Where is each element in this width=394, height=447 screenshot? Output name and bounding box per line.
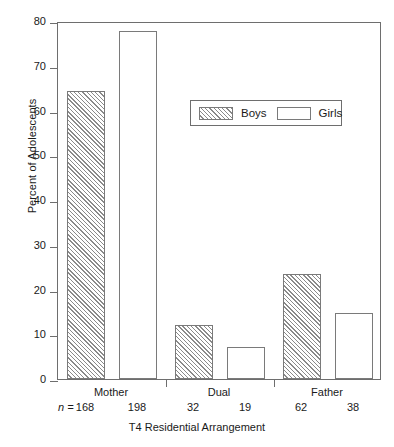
n-value-father-girls: 38 (323, 401, 383, 413)
bar-father-girls (335, 313, 373, 379)
y-axis-tick-label: 30 (34, 239, 46, 251)
bar-father-boys (283, 274, 321, 379)
y-axis-tick-label: 10 (34, 328, 46, 340)
y-axis-tick-label: 0 (40, 373, 46, 385)
y-axis-tick: 40 (50, 202, 58, 203)
y-axis-tick: 10 (50, 336, 58, 337)
y-axis-tick: 70 (50, 68, 58, 69)
bar-chart-figure: Percent of Adolescents 01020304050607080… (0, 0, 394, 447)
n-value-dual-girls: 19 (215, 401, 275, 413)
n-value-mother-girls: 198 (107, 401, 167, 413)
x-axis-title: T4 Residential Arrangement (0, 421, 394, 433)
bar-dual-boys (175, 325, 213, 379)
x-axis-category-label: Mother (51, 386, 171, 398)
y-axis-tick-label: 70 (34, 60, 46, 72)
plot-area: 01020304050607080 (57, 22, 381, 380)
y-axis-tick-label: 50 (34, 149, 46, 161)
x-axis-category-label: Father (267, 386, 387, 398)
y-axis-tick: 0 (50, 381, 58, 382)
chart-legend: Boys Girls (190, 100, 342, 126)
legend-label-boys: Boys (241, 107, 267, 119)
n-value-father-boys: 62 (271, 401, 331, 413)
y-axis-tick-label: 20 (34, 284, 46, 296)
x-axis-category-label: Dual (159, 386, 279, 398)
y-axis-tick: 80 (50, 23, 58, 24)
legend-swatch-girls (277, 107, 311, 120)
bar-mother-boys (67, 91, 105, 379)
y-axis-tick-label: 40 (34, 194, 46, 206)
y-axis-tick: 30 (50, 247, 58, 248)
n-value-mother-boys: 168 (55, 401, 115, 413)
bar-dual-girls (227, 347, 265, 379)
y-axis-tick: 50 (50, 157, 58, 158)
bar-mother-girls (119, 31, 157, 379)
legend-swatch-boys (199, 107, 233, 120)
y-axis-tick: 20 (50, 292, 58, 293)
n-value-dual-boys: 32 (163, 401, 223, 413)
y-axis-tick-label: 60 (34, 105, 46, 117)
y-axis-tick-label: 80 (34, 15, 46, 27)
y-axis-tick: 60 (50, 113, 58, 114)
legend-label-girls: Girls (319, 107, 343, 119)
